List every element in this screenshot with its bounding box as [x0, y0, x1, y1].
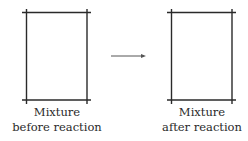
before-reaction-label: Mixture before reaction [0, 105, 114, 135]
reaction-arrow-icon [111, 54, 146, 58]
before-label-line2: before reaction [0, 120, 114, 135]
after-reaction-label: Mixture after reaction [146, 105, 248, 135]
before-label-line1: Mixture [0, 105, 114, 120]
after-reaction-box [167, 9, 236, 104]
after-label-line1: Mixture [146, 105, 248, 120]
before-reaction-box [22, 9, 91, 104]
after-label-line2: after reaction [146, 120, 248, 135]
